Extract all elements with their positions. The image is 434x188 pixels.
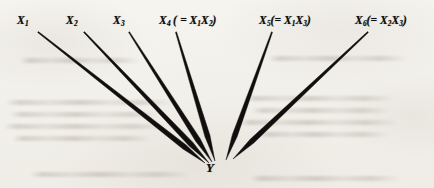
arrow-x1-to-outcome (38, 32, 205, 163)
variable-definition-x5: (= X1X3) (271, 14, 311, 26)
path-diagram-figure: X1X2X3X4 ( = X1X2)X5(= X1X3)X6(= X2X3) Y (0, 0, 434, 188)
variable-name-x6: X6 (355, 14, 367, 26)
variable-label-x3: X3 (113, 14, 125, 26)
variable-label-x4: X4 ( = X1X2) (159, 14, 217, 26)
variable-name-x5: X5 (259, 14, 271, 26)
arrow-x6-to-outcome (233, 32, 368, 159)
variable-name-x4: X4 (159, 14, 171, 26)
variable-name-x3: X3 (113, 14, 125, 26)
variable-label-x2: X2 (66, 14, 78, 26)
variable-label-x1: X1 (17, 14, 29, 26)
variable-label-x5: X5(= X1X3) (259, 14, 311, 26)
arrow-x3-to-outcome (129, 32, 212, 162)
arrow-x2-to-outcome (84, 32, 209, 163)
variable-name-x2: X2 (66, 14, 78, 26)
variable-label-x6: X6(= X2X3) (355, 14, 407, 26)
variable-definition-x6: (= X2X3) (367, 14, 407, 26)
arrow-layer (0, 0, 434, 188)
variable-definition-x4: ( = X1X2) (171, 14, 217, 26)
outcome-node-label: Y (206, 160, 214, 176)
variable-name-x1: X1 (17, 14, 29, 26)
